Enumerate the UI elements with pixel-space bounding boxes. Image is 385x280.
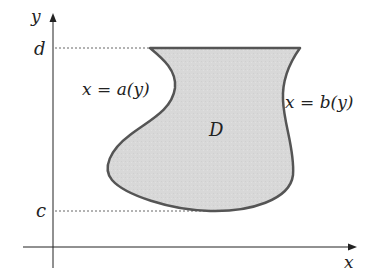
y-axis-arrow-icon: [50, 13, 57, 22]
x-axis-arrow-icon: [348, 244, 357, 251]
region-diagram: y x d c x = a(y) x = b(y) D: [0, 0, 385, 280]
left-curve-label: x = a(y): [82, 79, 150, 99]
right-curve-label: x = b(y): [285, 92, 353, 112]
region-d-shape: [108, 48, 300, 211]
x-axis-label: x: [344, 252, 354, 272]
d-label: d: [34, 38, 46, 59]
c-label: c: [36, 200, 46, 221]
y-axis-label: y: [30, 6, 41, 26]
region-label: D: [208, 119, 224, 140]
